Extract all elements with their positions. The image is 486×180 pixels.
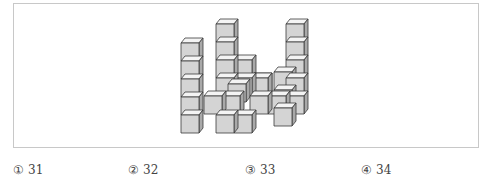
option-3-value: 33 [260, 163, 275, 177]
option-4[interactable]: ④34 [361, 163, 391, 177]
option-4-value: 34 [376, 163, 391, 177]
option-1[interactable]: ①31 [13, 163, 43, 177]
answer-options: ①31 ②32 ③33 ④34 [13, 163, 483, 179]
cube [181, 110, 203, 133]
option-2-value: 32 [143, 163, 158, 177]
option-2-mark: ② [128, 163, 139, 177]
cube [216, 110, 238, 133]
option-1-mark: ① [13, 163, 24, 177]
option-4-mark: ④ [361, 163, 372, 177]
option-2[interactable]: ②32 [128, 163, 158, 177]
option-3-mark: ③ [245, 163, 256, 177]
option-3[interactable]: ③33 [245, 163, 275, 177]
option-1-value: 31 [28, 163, 43, 177]
cube [274, 103, 296, 126]
cube-stack-figure [0, 0, 486, 160]
